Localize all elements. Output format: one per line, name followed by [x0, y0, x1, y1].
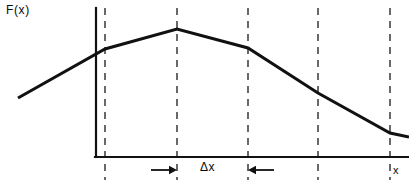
delta-right-arrow-head [248, 166, 256, 174]
dashed-gridlines-group [105, 8, 390, 180]
delta-left-arrow-head [169, 166, 177, 174]
plot-area [0, 0, 409, 184]
delta-x-arrow-group [151, 166, 274, 174]
figure-container: F(x) x Δx [0, 0, 409, 184]
data-curve [18, 29, 409, 137]
